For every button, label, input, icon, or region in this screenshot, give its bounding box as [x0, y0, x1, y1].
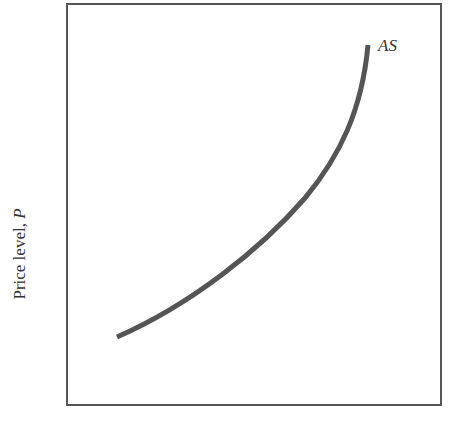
as-curve-plot — [0, 0, 465, 443]
as-curve — [117, 45, 368, 337]
y-axis-label: Price level, P — [10, 208, 30, 299]
y-axis-label-text: Price level, — [10, 219, 29, 300]
as-curve-label: AS — [378, 36, 397, 56]
y-axis-label-symbol: P — [10, 208, 29, 218]
